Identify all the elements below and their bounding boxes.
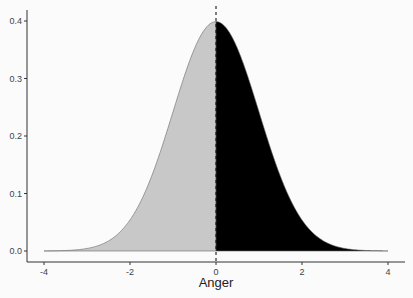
x-axis-label: Anger	[199, 275, 234, 290]
left-half-area	[44, 22, 216, 251]
svg-text:0.0: 0.0	[9, 246, 22, 256]
y-axis-ticks: 0.00.10.20.30.4	[9, 16, 27, 256]
svg-text:-2: -2	[126, 267, 134, 277]
right-half-area	[216, 22, 388, 251]
svg-text:0.2: 0.2	[9, 131, 22, 141]
svg-text:2: 2	[299, 267, 304, 277]
svg-text:0.3: 0.3	[9, 74, 22, 84]
svg-text:0.4: 0.4	[9, 16, 22, 26]
normal-density-chart: 0.00.10.20.30.4 -4-2024 Anger	[0, 0, 413, 298]
svg-text:4: 4	[385, 267, 390, 277]
svg-text:0.1: 0.1	[9, 189, 22, 199]
svg-text:-4: -4	[40, 267, 48, 277]
